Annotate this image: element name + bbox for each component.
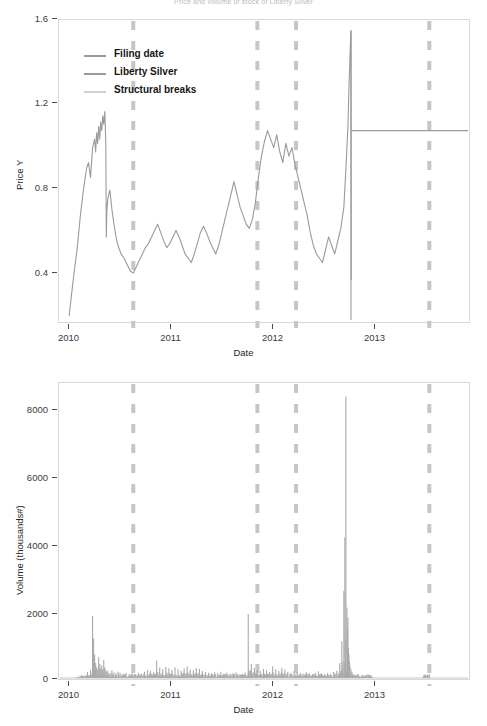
volume-ytickmark-2000 [52, 613, 57, 614]
figure-root: Price and volume of stock of Liberty Sil… [0, 0, 487, 726]
volume-xaxis-label: Date [0, 704, 487, 715]
volume-ytickmark-8000 [52, 409, 57, 410]
volume-ytickmark-4000 [52, 545, 57, 546]
volume-xtick-2010: 2010 [53, 689, 84, 700]
price-plot-canvas [0, 0, 487, 370]
volume-panel: 8000 6000 4000 2000 0 2010 2011 2012 201… [0, 370, 487, 726]
volume-ytick-4000: 4000 [6, 540, 48, 551]
volume-ytick-8000: 8000 [6, 404, 48, 415]
price-xtick-2011: 2011 [155, 332, 186, 343]
price-ytick-1.6: 1.6 [14, 13, 48, 24]
price-yaxis-label: Price Y [14, 160, 25, 190]
volume-yaxis-label: Volume (thousands#) [14, 505, 25, 595]
price-ytick-1.2: 1.2 [14, 97, 48, 108]
price-xtick-2010: 2010 [53, 332, 84, 343]
volume-xtickmark-2011 [170, 681, 171, 686]
volume-plot-canvas [0, 370, 487, 726]
volume-xtickmark-2012 [272, 681, 273, 686]
volume-bars [77, 396, 429, 678]
price-ytickmark-1.2 [52, 102, 57, 103]
price-legend: Filing date Liberty Silver Structural br… [84, 47, 234, 101]
volume-ytick-0: 0 [6, 673, 48, 684]
price-xtickmark-2011 [170, 324, 171, 329]
legend-item-structural-breaks: Structural breaks [84, 83, 234, 101]
volume-xtick-2012: 2012 [257, 689, 288, 700]
price-xtick-2012: 2012 [257, 332, 288, 343]
volume-xtickmark-2013 [374, 681, 375, 686]
legend-swatch-filing-date [84, 55, 106, 57]
volume-xtickmark-2010 [68, 681, 69, 686]
price-xaxis-label: Date [0, 347, 487, 358]
price-xtickmark-2010 [68, 324, 69, 329]
price-ytickmark-0.8 [52, 187, 57, 188]
legend-label-structural-breaks: Structural breaks [114, 84, 196, 95]
price-ytick-0.4: 0.4 [14, 267, 48, 278]
legend-swatch-structural-breaks [84, 91, 106, 93]
price-ytickmark-0.4 [52, 272, 57, 273]
volume-ytick-2000: 2000 [6, 608, 48, 619]
volume-ytickmark-6000 [52, 477, 57, 478]
structural-break-lines-volume [133, 384, 429, 686]
volume-xtick-2011: 2011 [155, 689, 186, 700]
price-ytickmark-1.6 [52, 18, 57, 19]
legend-label-filing-date: Filing date [114, 48, 164, 59]
price-panel: 1.6 1.2 0.8 0.4 2010 2011 2012 2013 Date… [0, 0, 487, 370]
legend-item-liberty-silver: Liberty Silver [84, 65, 234, 83]
volume-ytickmark-0 [52, 678, 57, 679]
volume-ytick-6000: 6000 [6, 472, 48, 483]
price-xtick-2013: 2013 [359, 332, 390, 343]
legend-item-filing-date: Filing date [84, 47, 234, 65]
price-xtickmark-2013 [374, 324, 375, 329]
volume-xtick-2013: 2013 [359, 689, 390, 700]
legend-swatch-liberty-silver [84, 73, 106, 75]
price-xtickmark-2012 [272, 324, 273, 329]
legend-label-liberty-silver: Liberty Silver [114, 66, 177, 77]
